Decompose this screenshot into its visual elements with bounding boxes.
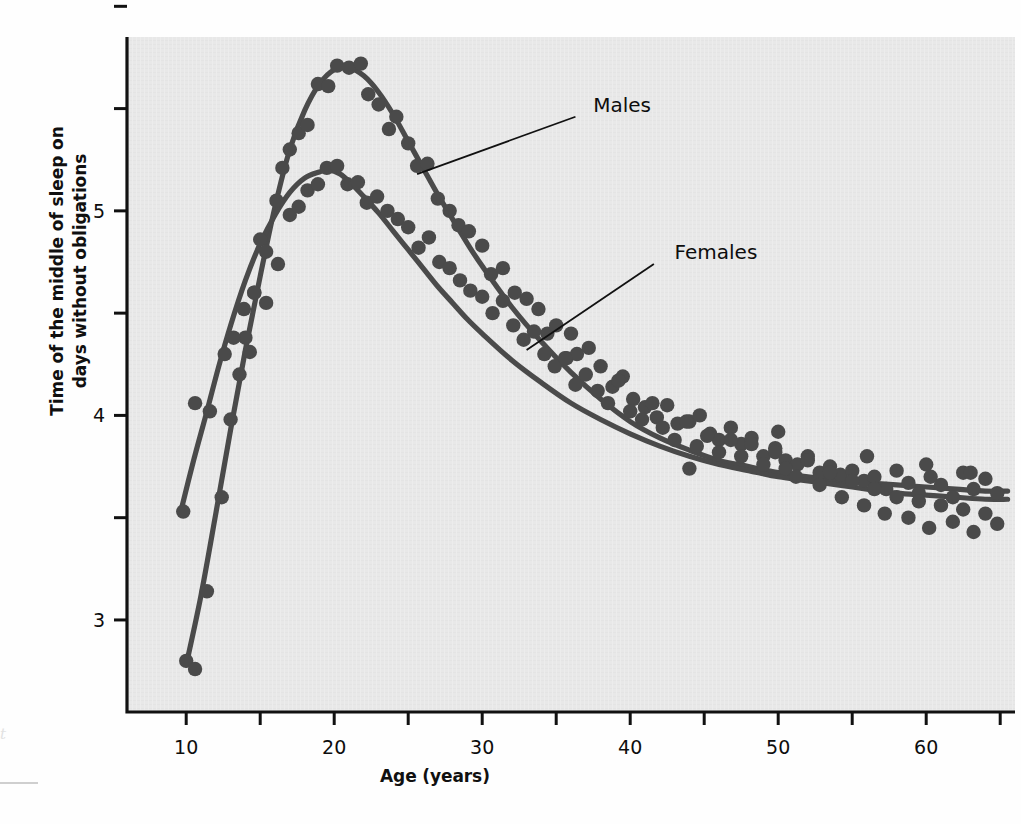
data-point bbox=[200, 584, 214, 598]
data-point bbox=[724, 433, 738, 447]
data-point bbox=[789, 470, 803, 484]
data-point bbox=[259, 296, 273, 310]
data-point bbox=[582, 341, 596, 355]
data-point bbox=[485, 306, 499, 320]
data-point bbox=[269, 193, 283, 207]
data-point bbox=[593, 359, 607, 373]
data-point bbox=[690, 439, 704, 453]
data-point bbox=[978, 506, 992, 520]
data-point bbox=[442, 204, 456, 218]
data-point bbox=[919, 457, 933, 471]
data-point bbox=[857, 498, 871, 512]
data-point bbox=[253, 232, 267, 246]
data-point bbox=[496, 261, 510, 275]
data-point bbox=[531, 302, 545, 316]
data-point bbox=[226, 330, 240, 344]
data-point bbox=[361, 87, 375, 101]
data-point bbox=[527, 324, 541, 338]
x-tick-label: 20 bbox=[322, 736, 346, 758]
y-axis-label: Time of the middle of sleep on days with… bbox=[46, 106, 92, 436]
data-point bbox=[411, 240, 425, 254]
data-point bbox=[712, 445, 726, 459]
data-point bbox=[401, 220, 415, 234]
data-point bbox=[462, 224, 476, 238]
data-point bbox=[922, 521, 936, 535]
data-point bbox=[223, 412, 237, 426]
data-point bbox=[682, 461, 696, 475]
data-point bbox=[401, 136, 415, 150]
chart-svg: 345102030405060 MalesFemales bbox=[0, 0, 1021, 824]
series-label-females: Females bbox=[675, 240, 758, 264]
data-point bbox=[656, 420, 670, 434]
data-point bbox=[966, 482, 980, 496]
data-point bbox=[422, 230, 436, 244]
data-point bbox=[321, 79, 335, 93]
data-point bbox=[330, 159, 344, 173]
data-point bbox=[901, 510, 915, 524]
data-point bbox=[901, 476, 915, 490]
data-point bbox=[912, 494, 926, 508]
data-point bbox=[724, 420, 738, 434]
data-point bbox=[176, 504, 190, 518]
data-point bbox=[860, 449, 874, 463]
data-point bbox=[442, 261, 456, 275]
data-point bbox=[966, 525, 980, 539]
data-point bbox=[283, 142, 297, 156]
data-point bbox=[956, 502, 970, 516]
data-point bbox=[771, 425, 785, 439]
data-point bbox=[496, 294, 510, 308]
data-point bbox=[537, 347, 551, 361]
data-point bbox=[371, 97, 385, 111]
data-point bbox=[389, 110, 403, 124]
sleep-timing-by-age-chart: 345102030405060 MalesFemales Time of the… bbox=[0, 0, 1021, 824]
data-point bbox=[946, 515, 960, 529]
data-point bbox=[946, 490, 960, 504]
data-point bbox=[963, 465, 977, 479]
y-tick-label: 4 bbox=[93, 404, 105, 426]
x-tick-label: 40 bbox=[618, 736, 642, 758]
series-label-males: Males bbox=[593, 93, 651, 117]
data-point bbox=[867, 470, 881, 484]
x-axis-label: Age (years) bbox=[380, 766, 490, 786]
data-point bbox=[645, 396, 659, 410]
data-point bbox=[611, 373, 625, 387]
data-point bbox=[431, 191, 445, 205]
data-point bbox=[259, 245, 273, 259]
data-point bbox=[990, 517, 1004, 531]
data-point bbox=[978, 472, 992, 486]
y-tick-label: 3 bbox=[93, 609, 105, 631]
data-point bbox=[626, 392, 640, 406]
data-point bbox=[700, 429, 714, 443]
x-tick-label: 60 bbox=[914, 736, 938, 758]
data-point bbox=[635, 412, 649, 426]
data-point bbox=[845, 474, 859, 488]
data-point bbox=[203, 404, 217, 418]
data-point bbox=[475, 238, 489, 252]
data-point bbox=[243, 345, 257, 359]
data-point bbox=[188, 662, 202, 676]
data-point bbox=[801, 453, 815, 467]
data-point bbox=[188, 396, 202, 410]
data-point bbox=[889, 490, 903, 504]
data-point bbox=[237, 302, 251, 316]
data-point bbox=[247, 285, 261, 299]
data-point bbox=[453, 273, 467, 287]
data-point bbox=[564, 326, 578, 340]
x-tick-label: 10 bbox=[174, 736, 198, 758]
data-point bbox=[370, 189, 384, 203]
data-point bbox=[623, 404, 637, 418]
x-tick-label: 30 bbox=[470, 736, 494, 758]
data-point bbox=[300, 118, 314, 132]
data-point bbox=[354, 56, 368, 70]
data-point bbox=[506, 318, 520, 332]
data-point bbox=[744, 437, 758, 451]
data-point bbox=[835, 490, 849, 504]
data-point bbox=[475, 290, 489, 304]
data-point bbox=[558, 351, 572, 365]
data-point bbox=[271, 257, 285, 271]
page-canvas: t 345102030405060 MalesFemales Time of t… bbox=[0, 0, 1021, 824]
data-point bbox=[217, 347, 231, 361]
x-tick-label: 50 bbox=[766, 736, 790, 758]
data-point bbox=[275, 161, 289, 175]
data-point bbox=[232, 367, 246, 381]
